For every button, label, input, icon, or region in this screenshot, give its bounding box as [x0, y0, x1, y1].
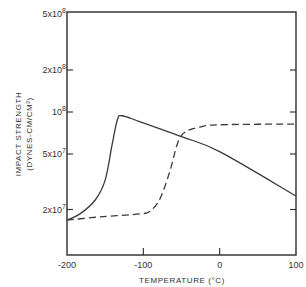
axis-ticks: [67, 70, 296, 255]
y-tick-label: 2x107: [43, 203, 67, 215]
plot-frame: [67, 12, 296, 255]
y-tick-label: 5x107: [43, 147, 67, 159]
y-axis-label: IMPACT STRENGTH: [14, 92, 23, 177]
y-axis-title: IMPACT STRENGTH: [14, 92, 23, 177]
x-axis-label: TEMPERATURE (°C): [139, 276, 225, 285]
x-tick-label: 0: [217, 260, 222, 270]
y-axis-units: (DYNES-CM/CM²): [25, 97, 34, 171]
y-axis-units-label: (DYNES-CM/CM²): [25, 97, 34, 171]
y-tick-label: 5x108: [43, 7, 67, 19]
solid-curve: [67, 116, 296, 221]
x-tick-label: -100: [134, 260, 152, 270]
x-tick-label: 100: [288, 260, 303, 270]
y-tick-label: 108: [52, 105, 66, 117]
x-tick-label: -200: [58, 260, 76, 270]
tick-labels: -200-10001005x1082x1081085x1072x107: [43, 7, 304, 270]
dashed-curve: [67, 124, 296, 220]
data-series: [67, 116, 296, 221]
y-tick-label: 2x108: [43, 63, 67, 75]
impact-strength-chart: -200-10001005x1082x1081085x1072x107 IMPA…: [0, 0, 306, 287]
